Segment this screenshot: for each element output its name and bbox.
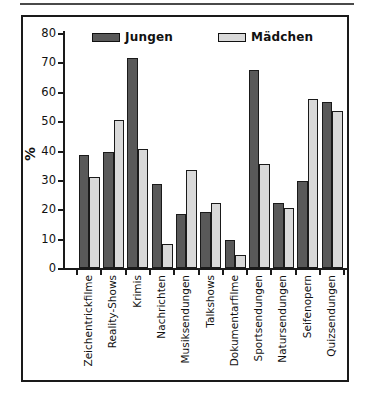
bar-maedchen-6 (211, 203, 222, 268)
bar-jungen-1 (79, 155, 90, 268)
x-tick-mark (76, 270, 78, 275)
x-tick-mark (100, 270, 102, 275)
legend-item-jungen: Jungen (92, 31, 173, 43)
legend-label-maedchen: Mädchen (251, 30, 313, 44)
y-tick-label: 80 (26, 27, 56, 40)
x-category-label: Nachrichten (155, 275, 168, 371)
x-tick-mark (173, 270, 175, 275)
x-category-label: Sportsendungen (252, 275, 265, 371)
bar-jungen-3 (127, 58, 138, 268)
y-tick-mark (58, 180, 63, 182)
y-tick-label: 10 (26, 233, 56, 246)
legend-item-maedchen: Mädchen (218, 31, 313, 43)
bar-maedchen-7 (235, 255, 246, 268)
y-axis-line (63, 31, 65, 270)
y-tick-mark (58, 151, 63, 153)
x-category-label: Zeichentrickfilme (82, 275, 95, 371)
x-category-label: Quizsendungen (325, 275, 338, 371)
x-tick-mark (319, 270, 321, 275)
y-tick-mark (58, 209, 63, 211)
bar-jungen-9 (273, 203, 284, 268)
bar-jungen-10 (297, 181, 308, 268)
legend-swatch-maedchen (218, 33, 246, 42)
y-tick-label: 30 (26, 174, 56, 187)
x-axis-line (63, 268, 347, 270)
x-tick-mark (295, 270, 297, 275)
x-tick-mark (343, 270, 345, 275)
x-category-label: Dokumentarfilme (228, 275, 241, 371)
bar-jungen-4 (152, 184, 163, 268)
x-tick-mark (198, 270, 200, 275)
bar-jungen-2 (103, 152, 114, 268)
legend-label-jungen: Jungen (125, 30, 173, 44)
x-tick-mark (149, 270, 151, 275)
bar-jungen-11 (322, 102, 333, 268)
bar-maedchen-8 (259, 164, 270, 268)
y-tick-label: 40 (26, 145, 56, 158)
bar-jungen-8 (249, 70, 260, 268)
bar-maedchen-9 (284, 208, 295, 268)
bar-jungen-6 (200, 212, 211, 268)
x-category-label: Natursendungen (276, 275, 289, 371)
x-category-label: Musiksendungen (179, 275, 192, 371)
bar-maedchen-4 (162, 244, 173, 268)
y-tick-mark (58, 92, 63, 94)
y-tick-mark (58, 33, 63, 35)
y-tick-mark (58, 62, 63, 64)
y-tick-label: 0 (26, 262, 56, 275)
x-category-label: Talkshows (204, 275, 217, 371)
y-tick-label: 20 (26, 203, 56, 216)
x-tick-mark (270, 270, 272, 275)
x-tick-mark (125, 270, 127, 275)
y-tick-label: 70 (26, 56, 56, 69)
x-category-label: Reality-Shows (106, 275, 119, 371)
legend-swatch-jungen (92, 33, 120, 42)
y-tick-label: 50 (26, 115, 56, 128)
bar-maedchen-11 (332, 111, 343, 268)
y-tick-label: 60 (26, 86, 56, 99)
bar-maedchen-3 (138, 149, 149, 268)
bar-maedchen-5 (186, 170, 197, 268)
x-category-label: Seifenopern (301, 275, 314, 371)
x-tick-mark (222, 270, 224, 275)
y-tick-mark (58, 239, 63, 241)
bar-maedchen-10 (308, 99, 319, 268)
x-category-label: Krimis (131, 275, 144, 371)
bar-maedchen-1 (89, 177, 100, 268)
y-tick-mark (58, 268, 63, 270)
y-tick-mark (58, 121, 63, 123)
x-tick-mark (246, 270, 248, 275)
bar-maedchen-2 (114, 120, 125, 268)
bar-jungen-5 (176, 214, 187, 268)
bar-jungen-7 (225, 240, 236, 268)
top-horizontal-rule (20, 3, 354, 5)
